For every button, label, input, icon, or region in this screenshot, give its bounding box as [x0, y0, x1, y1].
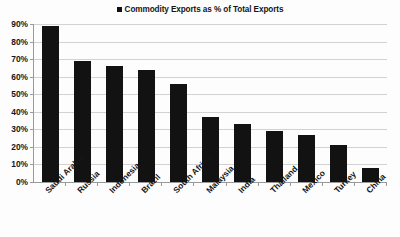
- y-axis-tick-label: 70%: [11, 54, 28, 64]
- y-axis-tick: [30, 112, 34, 113]
- y-axis-tick-label: 30%: [11, 124, 28, 134]
- y-axis-tick: [30, 59, 34, 60]
- y-axis-tick-label: 50%: [11, 89, 28, 99]
- bar: [42, 26, 59, 182]
- bar: [202, 117, 219, 182]
- legend-label: Commodity Exports as % of Total Exports: [125, 5, 284, 14]
- y-axis-tick: [30, 164, 34, 165]
- y-axis-tick-label: 20%: [11, 142, 28, 152]
- y-axis-tick-label: 40%: [11, 107, 28, 117]
- y-axis-tick: [30, 77, 34, 78]
- bar: [234, 124, 251, 182]
- x-axis-labels: Saudi ArabiaRussiaIndonesiaBrazilSouth A…: [0, 186, 400, 237]
- y-axis-tick: [30, 42, 34, 43]
- y-axis-tick: [30, 24, 34, 25]
- bar-chart: Commodity Exports as % of Total Exports …: [0, 0, 400, 237]
- y-axis-tick: [30, 94, 34, 95]
- bar: [106, 66, 123, 182]
- y-axis-tick-label: 60%: [11, 72, 28, 82]
- y-axis-tick-label: 80%: [11, 37, 28, 47]
- legend-color-swatch-icon: [117, 7, 122, 12]
- gridline: [34, 42, 387, 43]
- gridline: [34, 24, 387, 25]
- bar: [170, 84, 187, 182]
- chart-legend: Commodity Exports as % of Total Exports: [0, 2, 400, 16]
- y-axis-tick-label: 90%: [11, 19, 28, 29]
- y-axis-tick: [30, 129, 34, 130]
- y-axis-tick: [30, 147, 34, 148]
- y-axis-tick-label: 10%: [11, 159, 28, 169]
